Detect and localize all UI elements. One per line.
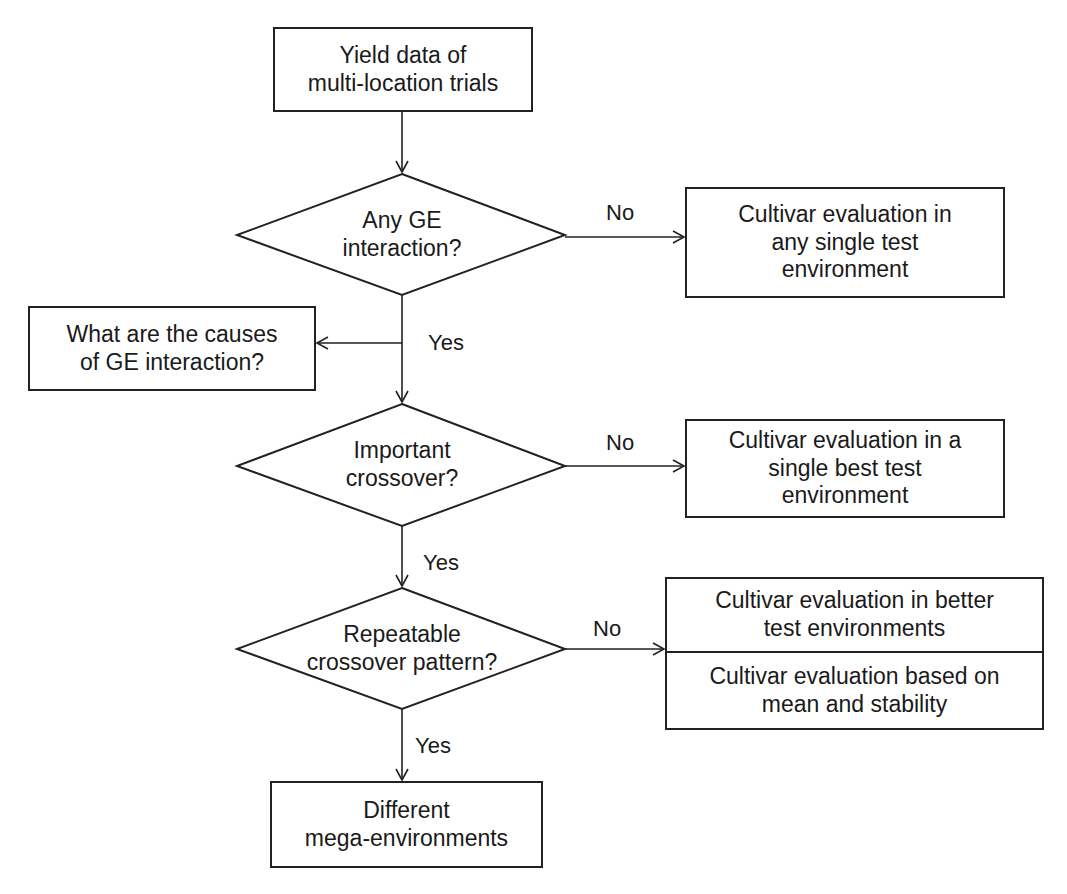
causes-box: What are the causes of GE interaction? [28,306,316,391]
d1-yes-label: Yes [428,330,464,356]
outcome-3b-text: Cultivar evaluation based on mean and st… [709,663,999,718]
causes-text: What are the causes of GE interaction? [67,321,278,376]
decision-3-label: Repeatable crossover pattern? [250,604,554,694]
decision-2-label: Important crossover? [270,420,534,510]
decision-2-text: Important crossover? [346,437,458,492]
d2-yes-label: Yes [423,550,459,576]
outcome-mean-stability: Cultivar evaluation based on mean and st… [667,653,1042,728]
outcome-any-single-env-box: Cultivar evaluation in any single test e… [685,187,1005,298]
outcome-better-test-envs: Cultivar evaluation in better test envir… [667,579,1042,653]
start-box: Yield data of multi-location trials [273,27,533,112]
decision-3-text: Repeatable crossover pattern? [307,621,497,676]
d1-no-label: No [606,200,634,226]
d2-no-label: No [606,430,634,456]
start-text: Yield data of multi-location trials [308,42,498,97]
outcome-1-text: Cultivar evaluation in any single test e… [738,201,952,284]
d3-yes-label: Yes [415,733,451,759]
end-text: Different mega-environments [305,797,508,852]
outcome-split-box: Cultivar evaluation in better test envir… [665,577,1044,730]
outcome-3a-text: Cultivar evaluation in better test envir… [715,587,994,642]
outcome-2-text: Cultivar evaluation in a single best tes… [729,427,962,510]
decision-1-text: Any GE interaction? [343,207,462,262]
outcome-single-best-env-box: Cultivar evaluation in a single best tes… [685,419,1005,518]
decision-1-label: Any GE interaction? [270,190,534,280]
d3-no-label: No [593,616,621,642]
mega-environments-box: Different mega-environments [270,781,543,868]
